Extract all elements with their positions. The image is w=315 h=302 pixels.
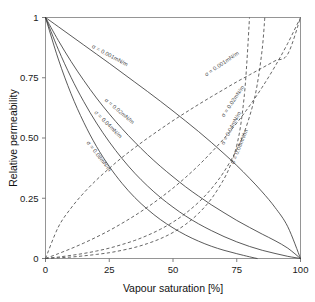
relative-permeability-chart: σ = 0.001mN/mσ = 0.02mN/mσ = 0.04mN/mσ =… — [0, 0, 315, 302]
y-tick-label: 0.50 — [20, 132, 39, 143]
curve-liquid-1 — [46, 18, 301, 259]
curve-liquid-0 — [46, 18, 301, 259]
x-tick-label: 0 — [43, 264, 48, 275]
curve-vapour-7 — [46, 18, 250, 259]
plot-area-border — [46, 18, 301, 259]
y-tick-label: 0.75 — [20, 72, 39, 83]
series-annotations: σ = 0.001mN/mσ = 0.02mN/mσ = 0.04mN/mσ =… — [86, 43, 250, 172]
y-tick-label: 0.25 — [20, 193, 39, 204]
y-tick-label: 1 — [33, 12, 38, 23]
y-axis-title: Relative permeability — [7, 89, 19, 187]
y-tick-label: 0 — [33, 253, 38, 264]
y-axis-tick-labels: 00.250.500.751 — [20, 12, 39, 264]
x-axis-tick-labels: 0255075100 — [43, 264, 309, 275]
series-label: σ = 0.08mN/m — [86, 140, 114, 173]
curve-vapour-4 — [46, 18, 301, 259]
curve-liquid-2 — [46, 18, 301, 259]
x-tick-label: 25 — [104, 264, 115, 275]
x-tick-label: 50 — [168, 264, 179, 275]
series-label: σ = 0.001mN/m — [203, 50, 240, 77]
chart-curves — [46, 18, 301, 259]
plot-frame — [46, 18, 301, 259]
curve-vapour-5 — [46, 18, 301, 259]
x-tick-label: 100 — [293, 264, 309, 275]
x-axis-title: Vapour saturation [%] — [123, 282, 223, 294]
x-tick-label: 75 — [231, 264, 242, 275]
chart-canvas: σ = 0.001mN/mσ = 0.02mN/mσ = 0.04mN/mσ =… — [0, 0, 315, 302]
